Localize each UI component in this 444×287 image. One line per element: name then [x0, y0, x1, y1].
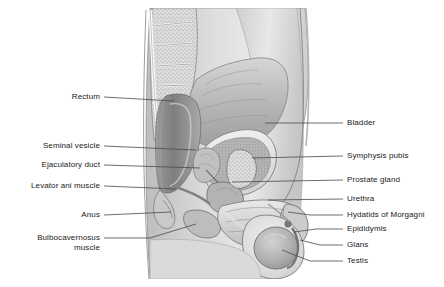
- label-urethra: Urethra: [347, 194, 374, 204]
- label-testis: Testis: [347, 256, 368, 266]
- label-seminal-vesicle: Seminal vesicle: [43, 141, 100, 151]
- anatomy-figure-page: Rectum Seminal vesicle Ejaculatory duct …: [0, 0, 444, 287]
- label-bladder: Bladder: [347, 118, 375, 128]
- label-levator-ani-muscle: Levator ani muscle: [31, 181, 100, 191]
- label-glans: Glans: [347, 240, 368, 250]
- symphysis-pubis: [227, 150, 257, 189]
- hydatid-of-morgagni: [285, 221, 291, 227]
- label-symphysis-pubis: Symphysis pubis: [347, 151, 409, 161]
- label-epididymis: Epididymis: [347, 224, 387, 234]
- label-ejaculatory-duct: Ejaculatory duct: [41, 160, 100, 170]
- testis: [254, 227, 298, 269]
- label-rectum: Rectum: [72, 92, 100, 102]
- label-anus: Anus: [81, 210, 100, 220]
- leader-glans: [300, 240, 343, 245]
- label-hydatids-of-morgagni: Hydatids of Morgagni: [347, 210, 425, 220]
- body-section: [144, 8, 309, 279]
- label-prostate-gland: Prostate gland: [347, 175, 400, 185]
- label-bulbocavernosus-muscle: Bulbocavernosus muscle: [37, 233, 100, 253]
